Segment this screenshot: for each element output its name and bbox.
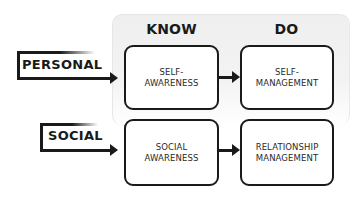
box-label: SELF- MANAGEMENT (256, 67, 318, 89)
bracket-left-line (40, 123, 43, 152)
row-label-personal: PERSONAL (22, 57, 102, 72)
box-label: RELATIONSHIP MANAGEMENT (256, 142, 319, 164)
arrow-self-awareness-to-self-management (219, 76, 233, 79)
box-self-management: SELF- MANAGEMENT (240, 45, 334, 110)
box-label: SELF- AWARENESS (145, 67, 199, 89)
box-social-awareness: SOCIAL AWARENESS (124, 119, 219, 186)
row-label-social: SOCIAL (48, 128, 103, 143)
box-label: SOCIAL AWARENESS (145, 142, 199, 164)
bracket-top-line (17, 51, 95, 54)
column-header-do: DO (240, 21, 333, 37)
bracket-top-line (40, 123, 98, 126)
box-self-awareness: SELF- AWARENESS (124, 45, 219, 110)
box-relationship-management: RELATIONSHIP MANAGEMENT (240, 119, 334, 186)
bracket-left-line (17, 51, 20, 80)
arrow-personal-to-self-awareness (17, 77, 111, 80)
arrow-social-to-social-awareness (40, 149, 111, 152)
column-header-know: KNOW (125, 21, 218, 37)
arrow-social-awareness-to-relationship-management (219, 149, 233, 152)
